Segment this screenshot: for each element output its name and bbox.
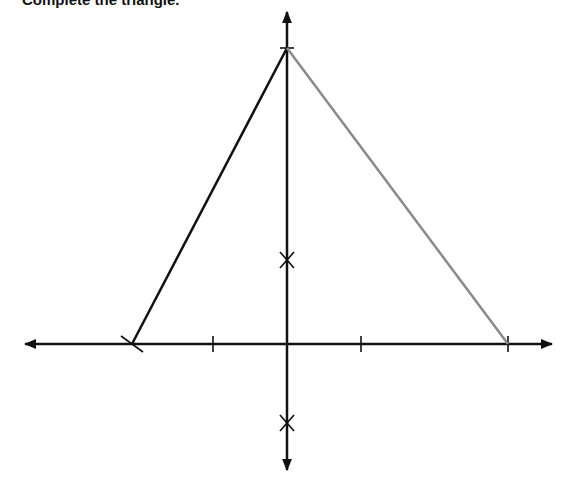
triangle-side-left (132, 48, 287, 344)
triangle-side-right (287, 48, 508, 344)
triangle-diagram (0, 0, 568, 496)
